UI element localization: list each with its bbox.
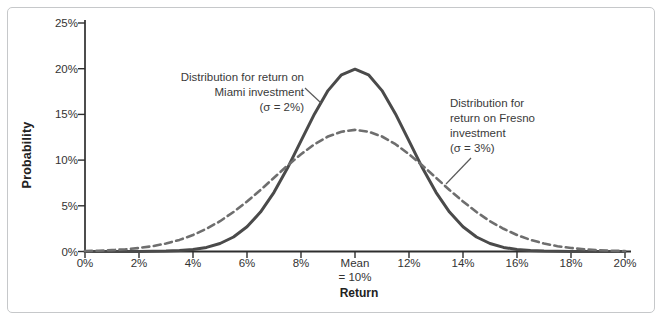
x-tick-label: Mean = 10% [328, 256, 382, 284]
annotation-fresno-distribution: Distribution for return on Fresno invest… [450, 96, 570, 156]
y-tick-label: 25% [42, 16, 78, 30]
y-tick-label: 10% [42, 153, 78, 167]
x-tick-label: 12% [382, 256, 436, 270]
x-tick-label: 2% [112, 256, 166, 270]
y-tick-label: 0% [42, 245, 78, 259]
annotation-miami-distribution: Distribution for return on Miami investm… [168, 70, 304, 115]
fresno-leader-line [446, 158, 471, 184]
x-tick-label: 4% [166, 256, 220, 270]
x-axis-title: Return [329, 286, 389, 300]
miami-leader-line [305, 88, 321, 103]
x-tick-label: 18% [544, 256, 598, 270]
y-tick-label: 20% [42, 62, 78, 76]
y-axis-title: Probability [20, 122, 34, 189]
x-tick-label: 14% [436, 256, 490, 270]
figure-page: { "colors": { "miami_curve": "#4a4a4a", … [0, 0, 670, 314]
x-tick-label: 20% [598, 256, 652, 270]
y-tick-label: 5% [42, 199, 78, 213]
x-tick-label: 16% [490, 256, 544, 270]
x-tick-label: 6% [220, 256, 274, 270]
y-tick-label: 15% [42, 107, 78, 121]
x-tick-label: 8% [274, 256, 328, 270]
